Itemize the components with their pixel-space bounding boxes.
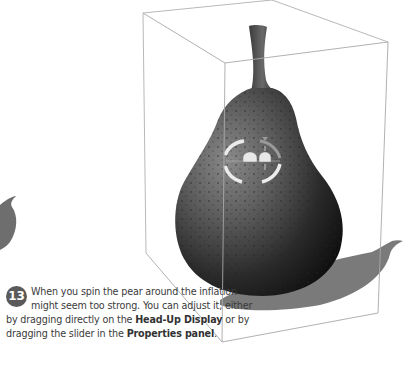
step-caption: 13When you spin the pear around the infl… — [6, 285, 256, 341]
pear-stem — [249, 25, 276, 96]
caption-bold-hud: Head-Up Display — [135, 314, 222, 325]
caption-text-3: . — [214, 328, 217, 339]
hud-slider-handle-right — [259, 152, 271, 162]
previous-pear-silhouette — [0, 196, 16, 250]
hud-slider-handle-left — [243, 152, 257, 162]
step-number-badge: 13 — [6, 286, 27, 307]
caption-bold-properties: Properties panel — [127, 328, 214, 339]
